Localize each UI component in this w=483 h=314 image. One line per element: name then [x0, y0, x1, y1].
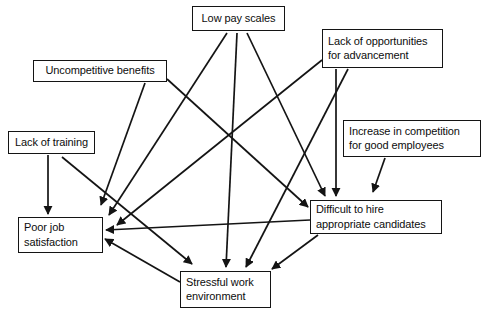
edge-uncompetitive-to-poor-job — [101, 83, 145, 205]
node-lack-of-opportunities[interactable]: Lack of opportunities for advancement — [322, 29, 443, 68]
node-increase-in-competition[interactable]: Increase in competition for good employe… — [343, 120, 481, 157]
node-stressful-work-environment[interactable]: Stressful work environment — [180, 271, 271, 308]
edge-opportunities-to-poor-job — [117, 60, 322, 225]
edge-difficult-hire-to-poor-job — [106, 220, 310, 230]
node-difficult-to-hire[interactable]: Difficult to hire appropriate candidates — [310, 200, 442, 234]
node-low-pay-scales[interactable]: Low pay scales — [192, 6, 285, 31]
cause-effect-diagram: Low pay scalesLack of opportunities for … — [0, 0, 483, 314]
edge-uncompetitive-to-difficult-hire — [167, 79, 308, 207]
edge-low-pay-to-stressful — [226, 33, 237, 267]
edge-opportunities-to-stressful — [246, 69, 348, 267]
edge-difficult-hire-to-stressful — [272, 235, 318, 269]
edge-low-pay-to-difficult-hire — [247, 33, 325, 196]
edge-competition-to-difficult-hire — [373, 158, 385, 192]
node-lack-of-training[interactable]: Lack of training — [8, 131, 95, 154]
node-poor-job-satisfaction[interactable]: Poor job satisfaction — [18, 217, 103, 253]
node-uncompetitive-benefits[interactable]: Uncompetitive benefits — [33, 60, 167, 82]
